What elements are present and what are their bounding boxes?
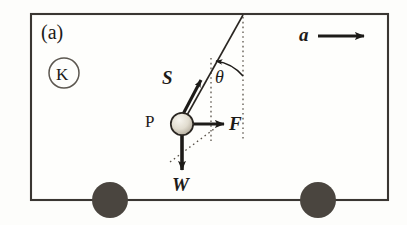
weight-vector-label: W	[172, 175, 189, 194]
reference-frame-label: K	[56, 66, 68, 83]
pendulum-bob-label: P	[145, 113, 154, 130]
pendulum-bob	[171, 113, 193, 135]
wheel-right	[300, 182, 336, 218]
wheel-left	[92, 182, 128, 218]
figure-canvas: (a) K P S F W a θ	[0, 0, 407, 225]
acceleration-vector-label: a	[299, 25, 309, 44]
angle-label: θ	[215, 68, 224, 86]
force-vector-label: F	[229, 114, 242, 133]
panel-label: (a)	[41, 22, 63, 42]
tension-vector-label: S	[162, 68, 173, 87]
cart-box-outline	[31, 14, 388, 200]
